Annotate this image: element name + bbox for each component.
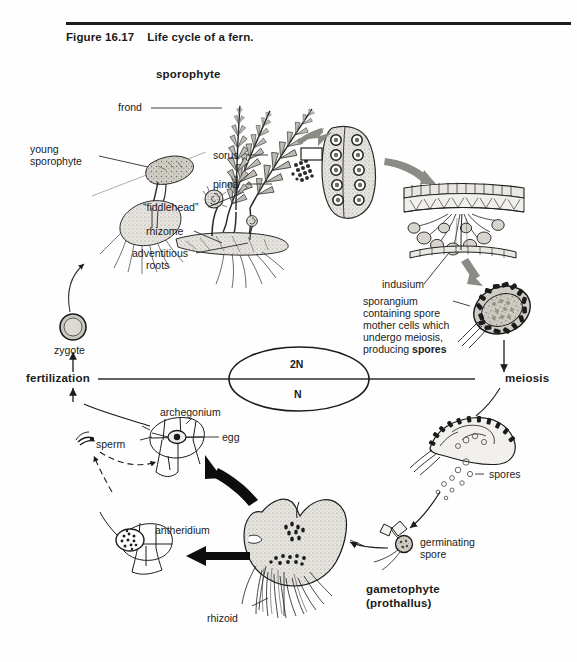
fiddlehead-small-illustration (247, 216, 258, 240)
leader-archegonium (186, 418, 192, 424)
leader-gametophyte (350, 540, 364, 546)
figure-caption: Figure 16.17Life cycle of a fern. (66, 31, 254, 43)
label-gametophyte-line2: (prothallus) (366, 597, 432, 610)
dehisced-sporangium-illustration (410, 416, 516, 475)
arrow-pinna-to-section (384, 158, 436, 184)
label-antheridium: antheridium (155, 524, 210, 537)
label-rhizome: rhizome (146, 225, 183, 238)
label-indusium: indusium (382, 278, 424, 291)
figure-title: Life cycle of a fern. (147, 31, 253, 43)
gametophyte-prothallus-illustration (242, 499, 347, 618)
rhizoids-illustration (242, 566, 332, 618)
label-sporophyte: sporophyte (156, 68, 221, 81)
rhizome-illustration (176, 233, 288, 256)
label-germinating-spore-line1: germinating (420, 536, 475, 549)
antheridia-on-prothallus (269, 554, 306, 566)
arrow-frond-to-pinna (297, 128, 332, 146)
arrow-sperm-to-archegonium (100, 452, 156, 465)
label-sporangium-line2: containing spore (363, 307, 440, 320)
leader-fiddlehead (208, 192, 244, 207)
figure-page: Figure 16.17Life cycle of a fern. (0, 0, 577, 662)
label-sporangium-line4: undergo meiosis, (363, 331, 443, 344)
label-sporangium-line5: producing spores (363, 343, 446, 356)
label-sporangium-producing: producing (363, 343, 412, 355)
label-sporangium-line3: mother cells which (363, 319, 449, 332)
fiddlehead-illustration (203, 186, 227, 236)
label-zygote: zygote (54, 344, 85, 357)
label-ploidy-haploid: N (294, 388, 302, 401)
leader-rhizome (194, 231, 222, 243)
arrow-zygote-to-sporophyte (69, 264, 84, 312)
sporangia-cluster (408, 214, 504, 255)
label-meiosis: meiosis (505, 372, 549, 385)
label-gametophyte-line1: gametophyte (366, 583, 440, 596)
label-fiddlehead: “fiddlehead” (143, 201, 198, 214)
label-sporangium-line1: sporangium (363, 295, 418, 308)
adventitious-roots-illustration (216, 252, 284, 288)
ploidy-ellipse (229, 347, 369, 411)
header-rule (66, 22, 571, 25)
leader-lines-sporophyte (99, 108, 272, 253)
label-sperm: sperm (96, 438, 125, 451)
label-spores: spores (489, 468, 521, 481)
archegonium-illustration (140, 417, 204, 477)
escaping-spores (436, 459, 473, 500)
sori-circles (331, 135, 365, 205)
path-meiosis-to-sporangium (476, 388, 500, 416)
sporophyte-plant-illustration (176, 105, 329, 288)
label-fertilization: fertilization (26, 372, 90, 385)
sorus-callout-box (301, 148, 322, 160)
label-young-sporophyte-line2: sporophyte (30, 155, 82, 168)
label-sporangium-spores: spores (412, 343, 446, 355)
label-archegonium: archegonium (160, 406, 221, 419)
pinna-with-sori-illustration (301, 126, 375, 218)
sperm-illustration (76, 432, 95, 445)
leader-fern-to-young (92, 152, 206, 196)
antheridium-illustration (100, 512, 172, 574)
zygote-illustration (60, 314, 86, 340)
label-egg: egg (222, 431, 240, 444)
leaf-cross-section-illustration (404, 183, 524, 258)
leader-young-sporophyte (99, 156, 148, 167)
figure-number: Figure 16.17 (66, 31, 134, 43)
leader-indusium (424, 254, 448, 284)
leader-adventitious-roots (196, 243, 248, 253)
sporangium-illustration (458, 274, 538, 348)
arrow-gametophyte-to-archegonium (205, 455, 258, 506)
sorus-patch-on-frond (291, 159, 314, 182)
fern-life-cycle-artwork (0, 0, 577, 662)
arrow-gametophyte-to-antheridium (186, 546, 250, 566)
arrow-antheridium-to-sperm (94, 456, 112, 492)
label-rhizoid: rhizoid (207, 612, 238, 625)
archegonia-on-prothallus (284, 521, 305, 541)
label-young-sporophyte-line1: young (30, 143, 59, 156)
label-adventitious-roots-line1: adventitious (132, 247, 188, 260)
arrow-germination-to-gametophyte (350, 542, 388, 548)
path-archegonium-to-fertilization (84, 404, 150, 426)
label-frond: frond (118, 101, 142, 114)
label-pinna: pinna (213, 178, 239, 191)
label-ploidy-diploid: 2N (290, 358, 303, 371)
germinating-spore-illustration (374, 521, 413, 570)
leader-rhizoid (252, 598, 268, 606)
label-sorus: sorus (213, 149, 239, 162)
arrow-section-to-sporangium (461, 258, 483, 286)
label-adventitious-roots-line2: roots (146, 259, 169, 272)
label-germinating-spore-line2: spore (420, 548, 446, 561)
arrow-spore-to-germination (410, 492, 440, 528)
leader-sporangium (453, 301, 470, 306)
